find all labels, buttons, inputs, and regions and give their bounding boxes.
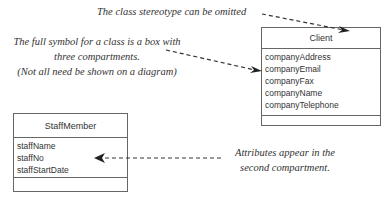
arrow-full-symbol bbox=[166, 50, 255, 70]
arrowheads bbox=[94, 26, 350, 163]
arrowhead-icon bbox=[94, 153, 105, 163]
arrows-layer bbox=[0, 0, 391, 200]
arrow-stereotype bbox=[262, 14, 344, 30]
